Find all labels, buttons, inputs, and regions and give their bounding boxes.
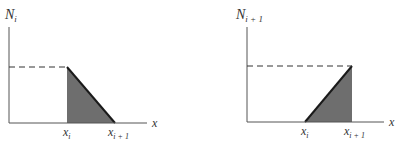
tick-xi1-left: xi + 1 — [107, 125, 129, 141]
tick-xi-right: xi — [300, 124, 309, 140]
x-axis-label-right: x — [388, 115, 395, 129]
shape-function-diagram: Ni x xi xi + 1 Ni + 1 x xi xi + 1 — [0, 0, 401, 143]
tick-xi-left: xi — [62, 125, 71, 141]
tick-xi1-right: xi + 1 — [343, 124, 365, 140]
y-label-right: Ni + 1 — [235, 7, 263, 24]
panel-right: Ni + 1 x xi xi + 1 — [235, 7, 395, 140]
x-axis-label-left: x — [151, 116, 158, 130]
panel-left: Ni x xi xi + 1 — [4, 7, 158, 141]
y-label-left: Ni — [4, 7, 17, 24]
